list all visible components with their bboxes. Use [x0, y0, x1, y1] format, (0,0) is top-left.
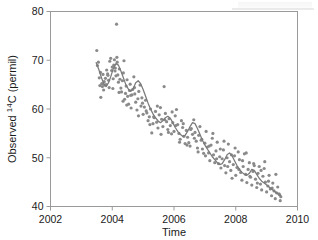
data-point	[122, 59, 125, 62]
data-point	[221, 157, 224, 160]
data-point	[134, 101, 137, 104]
data-point	[172, 130, 175, 133]
data-point	[205, 130, 208, 133]
data-point	[109, 57, 112, 60]
data-point	[195, 140, 198, 143]
chart-figure: 4050607080 20022004200620082010 Time Obs…	[0, 0, 318, 240]
data-point	[97, 61, 100, 64]
data-point	[211, 132, 214, 135]
data-point	[169, 124, 172, 127]
data-point	[185, 143, 188, 146]
x-axis-ticks: 20022004200620082010	[39, 207, 310, 225]
data-point	[125, 78, 128, 81]
data-point	[214, 149, 217, 152]
data-point	[248, 175, 251, 178]
data-point	[216, 141, 219, 144]
data-point	[159, 133, 162, 136]
data-point	[151, 122, 154, 125]
data-point	[137, 90, 140, 93]
data-point	[178, 141, 181, 144]
data-point	[186, 136, 189, 139]
data-point	[260, 188, 263, 191]
data-point	[276, 185, 279, 188]
data-point	[261, 175, 264, 178]
data-point	[229, 169, 232, 172]
data-point	[271, 182, 274, 185]
data-point	[113, 58, 116, 61]
data-point	[146, 119, 149, 122]
data-point	[279, 199, 282, 202]
data-point	[104, 77, 107, 80]
data-point	[234, 146, 237, 149]
data-point	[226, 165, 229, 168]
data-point	[230, 177, 233, 180]
data-point	[245, 151, 248, 154]
data-point	[270, 194, 273, 197]
scan-artifact-line	[232, 8, 314, 10]
data-point	[258, 165, 261, 168]
data-point	[105, 68, 108, 71]
data-point	[204, 154, 207, 157]
data-point	[133, 92, 136, 95]
data-point	[252, 162, 255, 165]
data-point	[156, 126, 159, 129]
data-point	[108, 86, 111, 89]
data-point	[116, 73, 119, 76]
data-point	[121, 100, 124, 103]
y-tick-label-80: 80	[32, 5, 44, 17]
data-point	[245, 181, 248, 184]
data-point	[211, 137, 214, 140]
y-axis-ticks: 4050607080	[32, 5, 51, 212]
data-point	[137, 114, 140, 117]
data-point	[208, 144, 211, 147]
data-point	[139, 104, 142, 107]
data-point	[219, 147, 222, 150]
data-point	[219, 166, 222, 169]
data-point	[250, 183, 253, 186]
data-point	[180, 119, 183, 122]
x-tick-label-2008: 2008	[224, 213, 248, 225]
data-point	[98, 76, 101, 79]
data-point	[240, 179, 243, 182]
data-point	[196, 146, 199, 149]
data-points-group	[95, 23, 282, 203]
data-point	[241, 159, 244, 162]
plot-frame	[51, 12, 298, 207]
data-point	[254, 178, 257, 181]
plot-frame-box	[51, 12, 298, 207]
data-point	[164, 112, 167, 115]
data-point	[247, 168, 250, 171]
data-point	[232, 163, 235, 166]
x-axis-title: Time	[162, 226, 186, 238]
data-point	[227, 143, 230, 146]
data-point	[129, 94, 132, 97]
data-point	[198, 125, 201, 128]
data-point	[141, 102, 144, 105]
y-axis-title-group: Observed 14C (permil)	[5, 55, 18, 163]
x-tick-label-2006: 2006	[162, 213, 186, 225]
data-point	[263, 167, 266, 170]
data-point	[159, 106, 162, 109]
data-point	[233, 154, 236, 157]
data-point	[113, 69, 116, 72]
data-point	[201, 147, 204, 150]
data-point	[166, 128, 169, 131]
data-point	[267, 174, 270, 177]
data-point	[259, 169, 262, 172]
data-point	[115, 56, 118, 59]
data-point	[161, 125, 164, 128]
data-point	[274, 197, 277, 200]
data-point	[188, 144, 191, 147]
data-point	[124, 92, 127, 95]
data-point	[208, 159, 211, 162]
data-point	[171, 110, 174, 113]
x-tick-label-2004: 2004	[101, 213, 125, 225]
data-point	[237, 150, 240, 153]
data-point	[156, 104, 159, 107]
data-point	[129, 83, 132, 86]
data-point	[145, 109, 148, 112]
y-tick-label-70: 70	[32, 54, 44, 66]
data-point	[182, 122, 185, 125]
data-point	[126, 95, 129, 98]
data-point	[163, 85, 166, 88]
